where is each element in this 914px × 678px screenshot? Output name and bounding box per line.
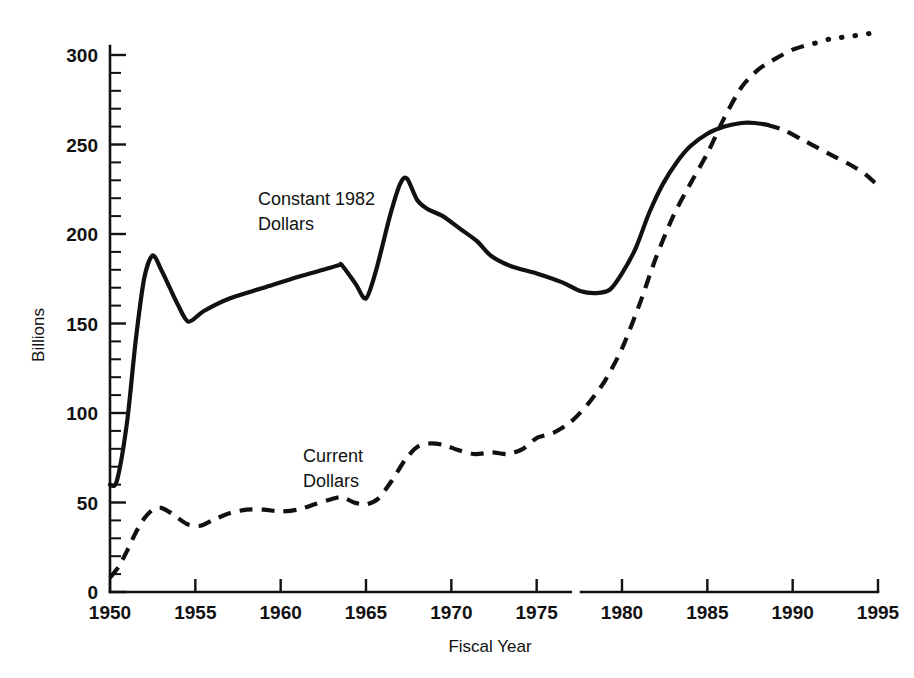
series-projection-constant-1982-dollars	[767, 125, 878, 186]
x-axis: 1950195519601965197019751980198519901995	[89, 579, 900, 623]
series-line-current-dollars	[110, 43, 815, 577]
y-tick-label: 200	[66, 224, 98, 245]
y-axis-title: Billions	[29, 308, 48, 362]
x-axis-title: Fiscal Year	[448, 637, 531, 656]
series-annotation-current-dollars: Current Dollars	[303, 446, 363, 491]
x-tick-label: 1980	[601, 602, 643, 623]
series-annotation-constant-dollars: Constant 1982 Dollars	[258, 189, 375, 234]
y-tick-label: 100	[66, 403, 98, 424]
x-tick-label: 1965	[345, 602, 388, 623]
annotation-current-dollars-line1: Current	[303, 446, 363, 466]
y-tick-label: 0	[87, 582, 98, 603]
data-series-group	[110, 32, 878, 578]
annotation-current-dollars-line2: Dollars	[303, 471, 359, 491]
x-tick-label: 1985	[686, 602, 729, 623]
line-chart-svg: 050100150200250300 195019551960196519701…	[0, 0, 914, 678]
y-tick-label: 250	[66, 135, 98, 156]
series-projection-current-dollars	[815, 32, 878, 43]
x-tick-label: 1975	[516, 602, 559, 623]
chart-figure: 050100150200250300 195019551960196519701…	[0, 0, 914, 678]
series-line-constant-1982-dollars	[110, 123, 767, 486]
x-tick-label: 1990	[772, 602, 814, 623]
y-axis: 050100150200250300	[66, 45, 126, 603]
x-tick-label: 1950	[89, 602, 131, 623]
x-tick-label: 1970	[430, 602, 472, 623]
x-tick-label: 1955	[174, 602, 217, 623]
x-tick-label: 1960	[260, 602, 302, 623]
annotation-constant-dollars-line1: Constant 1982	[258, 189, 375, 209]
annotation-constant-dollars-line2: Dollars	[258, 214, 314, 234]
x-tick-label: 1995	[857, 602, 900, 623]
y-tick-label: 50	[77, 493, 98, 514]
y-tick-label: 300	[66, 45, 98, 66]
y-tick-label: 150	[66, 314, 98, 335]
